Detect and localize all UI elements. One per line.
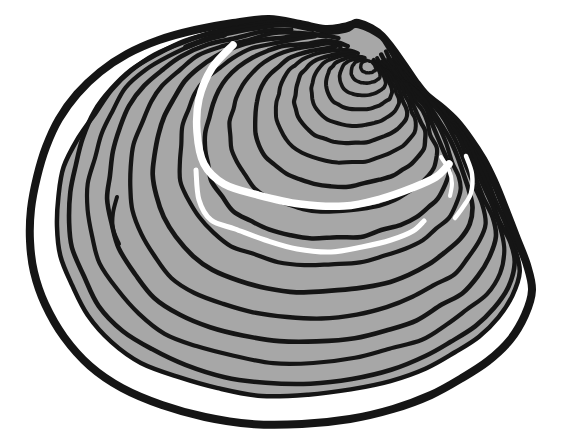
illustration-page xyxy=(0,0,563,444)
clam-shell-illustration xyxy=(0,0,563,444)
